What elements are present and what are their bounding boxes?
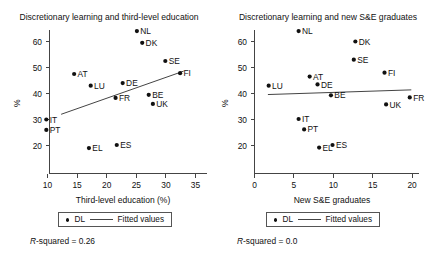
legend-line-icon — [90, 219, 113, 220]
x-tick-label: 20 — [407, 180, 417, 190]
data-point-label-de: DE — [126, 78, 138, 88]
data-point-be — [147, 93, 151, 97]
y-tick-label: 20 — [33, 141, 43, 151]
chart-panel-right: Discretionary learning and new S&E gradu… — [219, 0, 437, 256]
legend-right: DL Fitted values — [266, 212, 380, 227]
data-point-el — [317, 145, 321, 149]
x-axis-label-right: New S&E graduates — [223, 195, 437, 205]
r-squared-value: -squared = 0.0 — [243, 236, 297, 246]
x-tick-label: 30 — [161, 180, 171, 190]
y-axis-label-right: % — [220, 99, 230, 107]
data-point-lu — [89, 84, 93, 88]
data-point-el — [87, 146, 91, 150]
y-tick-label: 50 — [238, 63, 248, 73]
y-tick-label: 20 — [238, 141, 248, 151]
x-tick-label: 10 — [43, 180, 53, 190]
data-point-label-es: ES — [120, 140, 132, 150]
x-tick-label: 10 — [329, 180, 339, 190]
legend-line-label: Fitted values — [118, 215, 164, 224]
y-tick-label: 30 — [238, 115, 248, 125]
data-point-label-uk: UK — [156, 99, 168, 109]
r-squared-left: R-squared = 0.26 — [30, 236, 95, 246]
x-axis-label-left: Third-level education (%) — [14, 195, 232, 205]
x-ticks-left — [48, 174, 196, 178]
x-tick-label: 0 — [252, 180, 257, 190]
data-point-dk — [140, 41, 144, 45]
data-point-label-dk: DK — [359, 37, 371, 47]
data-point-label-fr: FR — [119, 93, 130, 103]
chart-panel-left: Discretionary learning and third-level e… — [0, 0, 218, 256]
data-point-label-fi: FI — [388, 68, 395, 78]
data-point-label-se: SE — [357, 55, 369, 65]
y-tick-label: 30 — [33, 115, 43, 125]
data-point-label-nl: NL — [140, 26, 151, 36]
data-point-fr — [113, 96, 117, 100]
data-point-de — [315, 82, 319, 86]
data-point-fi — [382, 71, 386, 75]
data-point-label-pt: PT — [50, 125, 61, 135]
data-point-fr — [408, 95, 412, 99]
data-point-label-de: DE — [321, 80, 333, 90]
data-points-left: NLDKSEFIATLUDEFRBEUKITPTELES — [44, 26, 191, 153]
data-point-dk — [353, 39, 357, 43]
legend-marker-label: DL — [282, 215, 292, 224]
data-point-at — [308, 75, 312, 79]
data-point-pt — [44, 128, 48, 132]
data-point-label-it: IT — [302, 114, 309, 124]
data-point-it — [297, 117, 301, 121]
data-point-pt — [302, 127, 306, 131]
x-tick-label: 5 — [292, 180, 297, 190]
data-point-se — [163, 59, 167, 63]
data-point-label-fi: FI — [184, 68, 191, 78]
data-point-label-dk: DK — [146, 38, 158, 48]
data-point-be — [329, 93, 333, 97]
data-point-label-fr: FR — [413, 93, 424, 103]
legend-marker-label: DL — [74, 215, 84, 224]
data-point-label-pt: PT — [308, 124, 319, 134]
x-tick-label: 15 — [72, 180, 82, 190]
data-point-label-es: ES — [336, 140, 348, 150]
data-point-nl — [135, 29, 139, 33]
data-point-label-se: SE — [169, 56, 181, 66]
x-tick-label: 15 — [368, 180, 378, 190]
x-tick-label: 20 — [102, 180, 112, 190]
legend-left: DL Fitted values — [58, 212, 172, 227]
data-point-label-lu: LU — [94, 81, 105, 91]
data-point-es — [115, 143, 119, 147]
data-point-label-at: AT — [78, 69, 88, 79]
x-tick-label: 25 — [132, 180, 142, 190]
r-squared-value: -squared = 0.26 — [36, 236, 95, 246]
data-point-label-nl: NL — [302, 26, 313, 36]
data-point-se — [352, 58, 356, 62]
y-tick-label: 60 — [33, 37, 43, 47]
legend-marker-icon — [66, 218, 69, 222]
data-point-es — [330, 143, 334, 147]
legend-marker-icon — [274, 218, 277, 222]
y-axis-label-left: % — [12, 99, 22, 107]
data-point-de — [121, 81, 125, 85]
data-point-label-it: IT — [50, 115, 57, 125]
data-point-it — [44, 117, 48, 121]
y-tick-label: 60 — [238, 37, 248, 47]
data-point-label-el: EL — [92, 143, 103, 153]
y-tick-label: 40 — [238, 89, 248, 99]
y-tick-label: 40 — [33, 89, 43, 99]
data-point-at — [72, 72, 76, 76]
y-tick-label: 50 — [33, 63, 43, 73]
y-ticks-right — [251, 42, 255, 146]
data-point-uk — [384, 102, 388, 106]
data-point-label-uk: UK — [390, 100, 402, 110]
legend-line-label: Fitted values — [326, 215, 372, 224]
data-point-uk — [151, 102, 155, 106]
data-point-lu — [267, 84, 271, 88]
data-points-right: NLDKSEFIATDELUBEFRUKITPTELES — [267, 26, 425, 152]
x-ticks-right — [255, 174, 413, 178]
data-point-fi — [178, 71, 182, 75]
data-point-label-lu: LU — [272, 81, 283, 91]
data-point-label-be: BE — [334, 90, 346, 100]
figure-container: Discretionary learning and third-level e… — [0, 0, 437, 256]
legend-line-icon — [298, 219, 321, 220]
data-point-nl — [297, 29, 301, 33]
x-tick-label: 35 — [191, 180, 201, 190]
r-squared-right: R-squared = 0.0 — [237, 236, 297, 246]
